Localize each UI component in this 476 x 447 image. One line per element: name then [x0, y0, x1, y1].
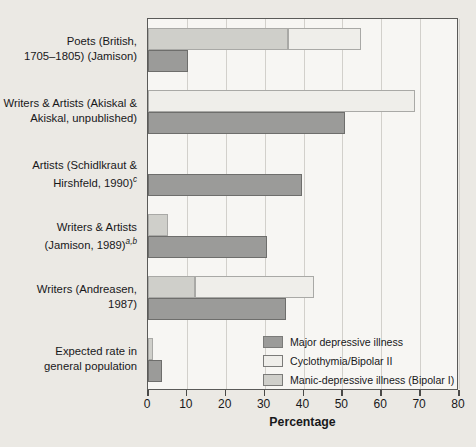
gridline-80	[459, 19, 460, 389]
gridline-20	[226, 19, 227, 389]
tick-mark-0	[147, 390, 149, 396]
tick-label-60: 60	[374, 397, 387, 411]
legend-item-0: Major depressive illness	[263, 332, 453, 351]
legend-label: Manic-depressive illness (Bipolar I)	[290, 374, 454, 386]
x-axis-title: Percentage	[147, 415, 458, 429]
tick-mark-40	[303, 390, 305, 396]
bar-manic-depressive	[148, 28, 288, 50]
legend-swatch-icon	[263, 374, 283, 386]
bar-cyclothymia	[195, 276, 314, 298]
legend-swatch-icon	[263, 336, 283, 348]
bar-major-depressive	[148, 50, 188, 72]
tick-label-70: 70	[412, 397, 425, 411]
category-label-writers-andreasen: Writers (Andreasen,1987)	[0, 282, 137, 311]
legend-item-2: Manic-depressive illness (Bipolar I)	[263, 370, 453, 389]
tick-mark-50	[341, 390, 343, 396]
tick-label-40: 40	[296, 397, 309, 411]
bar-major-depressive	[148, 174, 302, 196]
gridline-10	[187, 19, 188, 389]
tick-mark-30	[264, 390, 266, 396]
legend-label: Major depressive illness	[290, 336, 403, 348]
bar-major-depressive	[148, 298, 286, 320]
x-axis: 01020304050607080 Percentage	[147, 390, 458, 430]
bar-major-depressive	[148, 112, 345, 134]
bar-major-depressive	[148, 236, 267, 258]
tick-label-50: 50	[335, 397, 348, 411]
tick-label-0: 0	[144, 397, 151, 411]
legend-swatch-icon	[263, 355, 283, 367]
legend-item-1: Cyclothymia/Bipolar II	[263, 351, 453, 370]
category-label-writers-artists-jamison: Writers & Artists(Jamison, 1989)a,b	[0, 220, 137, 252]
tick-label-10: 10	[179, 397, 192, 411]
tick-mark-70	[419, 390, 421, 396]
bar-chart: Poets (British,1705–1805) (Jamison)Write…	[0, 0, 476, 447]
tick-label-20: 20	[218, 397, 231, 411]
bar-manic-depressive	[148, 276, 195, 298]
bar-major-depressive	[148, 360, 162, 382]
category-label-expected-rate: Expected rate ingeneral population	[0, 344, 137, 373]
tick-label-30: 30	[257, 397, 270, 411]
legend: Major depressive illnessCyclothymia/Bipo…	[263, 332, 453, 389]
category-label-writers-artists-akiskal: Writers & Artists (Akiskal &Akiskal, unp…	[0, 96, 137, 125]
category-label-poets-british: Poets (British,1705–1805) (Jamison)	[0, 34, 137, 63]
legend-label: Cyclothymia/Bipolar II	[290, 355, 392, 367]
tick-mark-60	[380, 390, 382, 396]
category-label-artists-schidlkraut: Artists (Schidlkraut &Hirshfeld, 1990)c	[0, 158, 137, 190]
category-axis-labels: Poets (British,1705–1805) (Jamison)Write…	[0, 18, 141, 390]
bar-manic-depressive	[148, 338, 153, 360]
tick-mark-80	[458, 390, 460, 396]
tick-mark-10	[186, 390, 188, 396]
tick-mark-20	[225, 390, 227, 396]
bar-cyclothymia	[288, 28, 361, 50]
tick-label-80: 80	[451, 397, 464, 411]
bar-manic-depressive	[148, 214, 168, 236]
bar-cyclothymia	[148, 90, 415, 112]
